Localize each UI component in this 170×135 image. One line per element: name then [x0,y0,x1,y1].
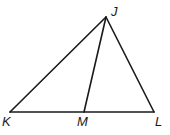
vertex-label-m: M [77,115,88,128]
segment-jl [106,17,154,112]
vertex-label-k: K [2,115,11,128]
vertex-label-l: L [155,115,162,128]
segment-jm [84,17,106,112]
vertex-label-j: J [111,5,118,18]
segment-jk [10,17,106,112]
